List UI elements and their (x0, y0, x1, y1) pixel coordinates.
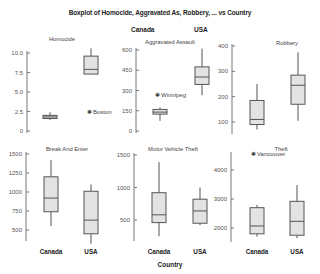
y-tick-label: 3000 (214, 196, 228, 202)
box-usa (84, 48, 98, 74)
box-iqr (195, 67, 209, 85)
box-iqr (152, 193, 166, 223)
y-tick-label: 1250 (9, 170, 23, 176)
outlier-label: Winnipeg (161, 92, 186, 98)
outlier-marker-icon: ✱ (155, 92, 160, 98)
y-tick-label: 450 (122, 67, 133, 73)
y-tick-label: 600 (122, 47, 133, 53)
panel-title: Homocide (49, 36, 75, 42)
y-tick-label: 400 (218, 43, 229, 49)
outlier-label: Boston (93, 109, 112, 115)
box-usa (290, 185, 304, 238)
y-tick-label: 500 (12, 227, 23, 233)
box-iqr (44, 177, 58, 212)
outlier-label: Vancouver (257, 151, 285, 157)
y-tick-label: 750 (12, 208, 23, 214)
box-usa (193, 188, 207, 226)
panel-aggravated-assault: 0150300450600Aggravated Assault✱Winnipeg (122, 39, 209, 134)
boxplot-chart: 02.55.07.510.0Homocide✱Boston01503004506… (0, 0, 320, 274)
y-tick-label: 1000 (9, 189, 23, 195)
category-label: USA (193, 248, 207, 255)
y-tick-label: 2.5 (15, 109, 24, 115)
panel-motor-vehicle-theft: 50010001500Motor Vehicle TheftCanadaUSA (117, 146, 207, 255)
y-tick-label: 1000 (117, 185, 131, 191)
box-iqr (290, 201, 304, 235)
y-tick-label: 1500 (9, 151, 23, 157)
panel-title: Robbery (276, 40, 298, 46)
y-tick-label: 500 (120, 217, 131, 223)
box-usa (291, 52, 305, 120)
category-label: USA (290, 248, 304, 255)
category-label: Canada (148, 248, 171, 255)
box-iqr (84, 191, 98, 234)
y-tick-label: 0 (129, 128, 133, 134)
y-tick-label: 4000 (214, 167, 228, 173)
category-label: Canada (246, 248, 269, 255)
box-canada (250, 205, 264, 237)
panel-theft: 200030004000TheftCanadaUSA✱Vancouver (214, 146, 304, 255)
y-tick-label: 10.0 (11, 50, 23, 56)
y-tick-label: 300 (122, 88, 133, 94)
box-iqr (250, 100, 264, 124)
outlier-marker-icon: ✱ (87, 109, 92, 115)
box-canada (43, 112, 57, 120)
box-iqr (250, 208, 264, 234)
panel-break-and-enter: 500750100012501500Break And EnterCanadaU… (9, 146, 98, 255)
panel-robbery: 100200300400Robbery (218, 40, 305, 134)
y-tick-label: 2000 (214, 225, 228, 231)
category-label: USA (84, 248, 98, 255)
y-tick-label: 1500 (117, 152, 131, 158)
panel-title: Break And Enter (46, 146, 88, 152)
outlier-vancouver: ✱Vancouver (251, 151, 286, 157)
box-iqr (84, 56, 98, 74)
y-tick-label: 100 (218, 119, 229, 125)
outlier-boston: ✱Boston (87, 109, 112, 115)
box-canada (152, 162, 166, 236)
y-tick-label: 7.5 (15, 70, 24, 76)
y-tick-label: 150 (122, 108, 133, 114)
outlier-winnipeg: ✱Winnipeg (155, 92, 187, 98)
box-iqr (291, 75, 305, 104)
box-usa (195, 49, 209, 96)
box-canada (44, 160, 58, 226)
y-tick-label: 5.0 (15, 89, 24, 95)
y-tick-label: 300 (218, 68, 229, 74)
box-canada (153, 107, 167, 121)
y-tick-label: 200 (218, 94, 229, 100)
box-canada (250, 84, 264, 130)
panel-title: Aggravated Assault (145, 39, 195, 45)
panel-homocide: 02.55.07.510.0Homocide✱Boston (11, 36, 111, 134)
outlier-marker-icon: ✱ (251, 151, 256, 157)
category-label: Canada (40, 248, 63, 255)
box-usa (84, 184, 98, 243)
y-tick-label: 0 (20, 128, 24, 134)
panel-title: Motor Vehicle Theft (148, 146, 198, 152)
